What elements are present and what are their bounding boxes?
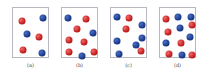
panel-c xyxy=(110,7,147,58)
panel-label: (c) xyxy=(110,62,147,68)
blue-particle xyxy=(163,40,170,47)
red-particle xyxy=(36,34,43,41)
blue-particle xyxy=(139,35,146,42)
blue-particle xyxy=(39,50,46,57)
panel-d xyxy=(159,7,196,58)
panel-label: (d) xyxy=(159,62,196,68)
panel-b xyxy=(61,7,98,58)
blue-particle xyxy=(114,14,121,21)
blue-particle xyxy=(79,53,86,60)
red-particle xyxy=(123,26,130,33)
red-particle xyxy=(20,47,27,54)
red-particle xyxy=(66,49,73,56)
panel-a xyxy=(12,7,49,58)
red-particle xyxy=(138,48,145,55)
blue-particle xyxy=(90,30,97,37)
red-particle xyxy=(81,39,88,46)
blue-particle xyxy=(40,15,47,22)
red-particle xyxy=(74,26,81,33)
red-particle xyxy=(83,16,90,23)
panel-label: (a) xyxy=(12,62,49,68)
blue-particle xyxy=(24,31,31,38)
red-particle xyxy=(165,29,172,36)
blue-particle xyxy=(187,34,194,41)
red-particle xyxy=(178,40,185,47)
blue-particle xyxy=(65,15,72,22)
red-particle xyxy=(166,51,173,58)
red-particle xyxy=(189,22,196,29)
blue-particle xyxy=(177,25,184,32)
blue-particle xyxy=(116,51,123,58)
red-particle xyxy=(189,52,196,59)
red-particle xyxy=(163,16,170,23)
blue-particle xyxy=(114,38,121,45)
red-particle xyxy=(126,15,133,22)
blue-particle xyxy=(175,14,182,21)
blue-particle xyxy=(139,22,146,29)
red-particle xyxy=(19,18,26,25)
blue-particle xyxy=(188,14,195,21)
panel-label: (b) xyxy=(61,62,98,68)
blue-particle xyxy=(179,52,186,59)
red-particle xyxy=(91,49,98,56)
red-particle xyxy=(66,37,73,44)
